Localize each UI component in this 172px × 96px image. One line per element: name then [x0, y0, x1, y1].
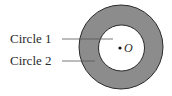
center-point-dot: [118, 46, 121, 49]
center-label: O: [124, 41, 133, 55]
concentric-circles-diagram: Circle 1 Circle 2 O: [0, 0, 172, 96]
circle-2-label: Circle 2: [10, 53, 52, 68]
circle-1-label: Circle 1: [10, 31, 52, 46]
